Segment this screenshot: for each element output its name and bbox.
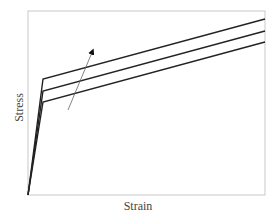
curves bbox=[28, 19, 265, 195]
stress-strain-chart bbox=[0, 0, 276, 220]
x-axis-label: Strain bbox=[0, 199, 276, 214]
series-line-2 bbox=[28, 31, 265, 195]
series-line-3 bbox=[28, 19, 265, 195]
series-line-1 bbox=[28, 42, 265, 195]
y-axis-label: Stress bbox=[12, 83, 27, 133]
plot-frame bbox=[28, 11, 265, 195]
increase-arrow-icon bbox=[68, 50, 93, 110]
